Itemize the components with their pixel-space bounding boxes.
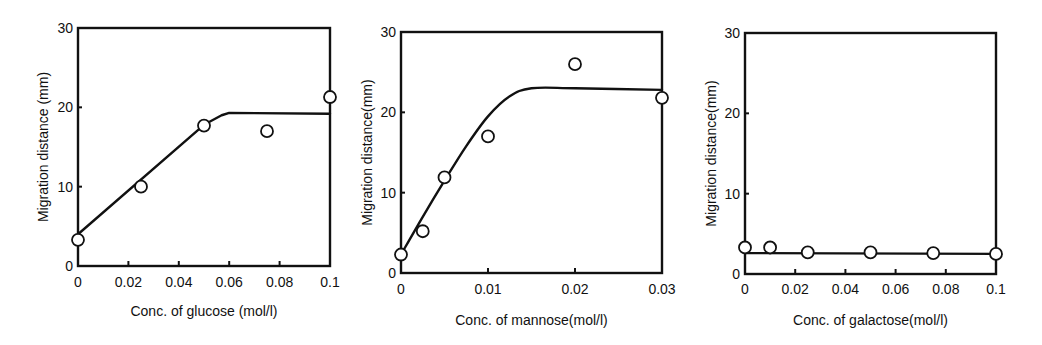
x-tick-label: 0.04 — [832, 281, 859, 297]
x-tick-label: 0.01 — [474, 281, 501, 297]
x-tick-label: 0.1 — [986, 281, 1006, 297]
y-axis-label: Migration distance(mm) — [359, 79, 375, 225]
data-point-marker — [927, 247, 939, 259]
x-tick-label: 0.1 — [320, 274, 340, 290]
data-point-marker — [198, 120, 210, 132]
y-tick-label: 0 — [65, 258, 73, 274]
data-point-marker — [569, 58, 581, 70]
chart-panel-2: 00.010.020.030102030Conc. of mannose(mol… — [359, 24, 676, 328]
x-tick-label: 0 — [397, 281, 405, 297]
x-tick-label: 0 — [741, 281, 749, 297]
plot-frame — [745, 33, 996, 274]
data-point-marker — [990, 248, 1002, 260]
chart-canvas: 00.020.040.060.080.10102030Conc. of gluc… — [0, 0, 1042, 345]
y-tick-label: 20 — [380, 104, 396, 120]
y-axis-label: Migration distance(mm) — [703, 80, 719, 226]
data-point-marker — [764, 241, 776, 253]
fit-curve — [401, 88, 662, 255]
plot-frame — [78, 28, 330, 266]
data-point-marker — [802, 246, 814, 258]
chart-panel-1: 00.020.040.060.080.10102030Conc. of gluc… — [35, 20, 340, 319]
y-tick-label: 10 — [724, 186, 740, 202]
data-point-marker — [656, 92, 668, 104]
chart-panel-3: 00.020.040.060.080.10102030Conc. of gala… — [703, 25, 1006, 328]
data-point-marker — [439, 171, 451, 183]
x-tick-label: 0.08 — [932, 281, 959, 297]
y-tick-label: 10 — [57, 179, 73, 195]
data-point-marker — [72, 234, 84, 246]
y-tick-label: 30 — [57, 20, 73, 36]
data-point-marker — [417, 225, 429, 237]
data-point-marker — [395, 249, 407, 261]
y-tick-label: 10 — [380, 185, 396, 201]
y-axis-label: Migration distance (mm) — [35, 72, 51, 222]
x-tick-label: 0 — [74, 274, 82, 290]
x-tick-label: 0.02 — [782, 281, 809, 297]
data-point-marker — [324, 91, 336, 103]
x-tick-label: 0.03 — [648, 281, 675, 297]
x-axis-label: Conc. of galactose(mol/l) — [793, 312, 948, 328]
y-tick-label: 20 — [57, 99, 73, 115]
data-point-marker — [865, 246, 877, 258]
x-tick-label: 0.02 — [561, 281, 588, 297]
data-point-marker — [739, 241, 751, 253]
data-point-marker — [261, 125, 273, 137]
plot-frame — [401, 32, 662, 273]
x-tick-label: 0.06 — [216, 274, 243, 290]
y-tick-label: 30 — [724, 25, 740, 41]
x-tick-label: 0.08 — [266, 274, 293, 290]
y-tick-label: 0 — [388, 265, 396, 281]
y-tick-label: 20 — [724, 105, 740, 121]
y-tick-label: 0 — [732, 266, 740, 282]
x-axis-label: Conc. of mannose(mol/l) — [455, 312, 608, 328]
x-tick-label: 0.02 — [115, 274, 142, 290]
y-tick-label: 30 — [380, 24, 396, 40]
data-point-marker — [482, 130, 494, 142]
x-tick-label: 0.04 — [165, 274, 192, 290]
x-axis-label: Conc. of glucose (mol/l) — [130, 303, 277, 319]
data-point-marker — [135, 181, 147, 193]
x-tick-label: 0.06 — [882, 281, 909, 297]
